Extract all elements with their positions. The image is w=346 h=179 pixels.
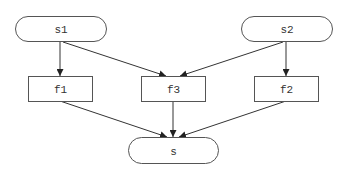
node-f1[interactable]: f1 xyxy=(29,77,93,102)
edge-f1-s xyxy=(60,101,167,137)
node-label-f1: f1 xyxy=(54,84,68,96)
edge-s2-f3 xyxy=(180,42,283,76)
node-s[interactable]: s xyxy=(129,138,219,164)
node-label-f3: f3 xyxy=(167,84,180,96)
node-label-s: s xyxy=(170,146,177,158)
node-label-s1: s1 xyxy=(54,24,68,36)
node-s2[interactable]: s2 xyxy=(242,17,333,42)
edge-s1-f3 xyxy=(63,42,166,76)
node-label-f2: f2 xyxy=(280,84,293,96)
node-label-s2: s2 xyxy=(280,24,293,36)
node-f3[interactable]: f3 xyxy=(142,77,206,102)
flowchart-diagram: s1 s2 f1 f3 f2 s xyxy=(0,0,346,179)
node-s1[interactable]: s1 xyxy=(16,17,107,42)
node-f2[interactable]: f2 xyxy=(255,77,319,102)
edge-f2-s xyxy=(179,101,286,137)
